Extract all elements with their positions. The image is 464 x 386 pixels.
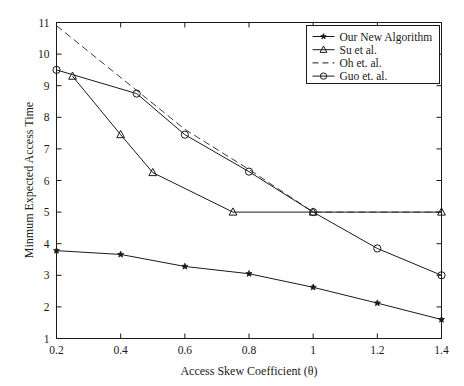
- legend-label-3: Guo et. al.: [340, 70, 388, 82]
- legend-label-1: Su et al.: [340, 44, 377, 56]
- legend: Our New AlgorithmSu et al.Oh et. al.Guo …: [307, 26, 440, 84]
- x-tick-label: 1: [310, 344, 316, 356]
- y-tick-label: 9: [44, 80, 50, 92]
- chart-figure: 0.20.40.60.811.21.4 1234567891011 Access…: [0, 0, 464, 386]
- x-tick-label: 0.6: [178, 344, 193, 356]
- x-tick-label: 1.4: [434, 344, 449, 356]
- y-tick-label: 8: [44, 111, 50, 123]
- y-tick-label: 6: [44, 175, 50, 187]
- y-tick-label: 2: [44, 301, 50, 313]
- x-tick-label: 0.8: [242, 344, 257, 356]
- y-tick-label: 5: [44, 206, 50, 218]
- legend-label-2: Oh et. al.: [340, 57, 382, 69]
- y-tick-label: 4: [44, 238, 50, 250]
- y-tick-label: 10: [38, 48, 50, 60]
- x-tick-label: 1.2: [370, 344, 385, 356]
- y-tick-label: 1: [44, 333, 50, 345]
- y-tick-label: 3: [44, 269, 50, 281]
- legend-label-0: Our New Algorithm: [340, 31, 433, 44]
- line-chart: 0.20.40.60.811.21.4 1234567891011 Access…: [0, 0, 464, 386]
- x-tick-label: 0.2: [49, 344, 64, 356]
- y-tick-label: 7: [44, 143, 50, 155]
- x-axis-title: Access Skew Coefficient (θ): [180, 364, 317, 378]
- x-tick-label: 0.4: [113, 344, 128, 356]
- y-axis-title: Minmum Expected Access Time: [22, 102, 36, 258]
- y-tick-label: 11: [38, 17, 49, 29]
